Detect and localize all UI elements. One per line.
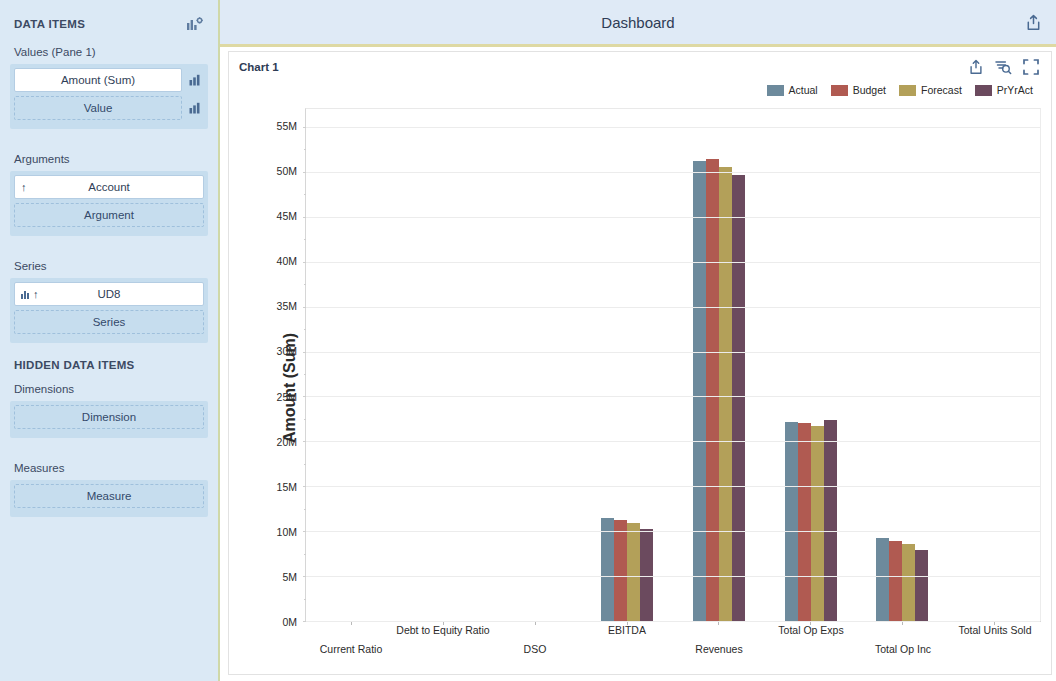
bar-pryract[interactable] — [824, 420, 837, 621]
sidebar-pill-row: ↑ Account — [14, 175, 204, 199]
export-icon[interactable] — [968, 59, 984, 75]
data-item-label: Measure — [87, 490, 132, 502]
sidebar-group-values: Amount (Sum) Value — [10, 64, 208, 129]
x-axis-labels: Current RatioDebt to Equity RatioDSOEBIT… — [305, 622, 1041, 666]
bar-actual[interactable] — [601, 518, 614, 621]
data-items-header: DATA ITEMS — [0, 0, 218, 42]
page-title: Dashboard — [220, 14, 1056, 31]
dashboard-pane: Dashboard Chart 1 — [220, 0, 1056, 681]
x-tick-label: Total Units Sold — [959, 624, 1032, 636]
sidebar-pill-row: Series — [14, 310, 204, 334]
sidebar-pill-row: Value — [14, 96, 204, 120]
sidebar-section-label-arguments: Arguments — [0, 149, 218, 171]
data-item-series-placeholder[interactable]: Series — [14, 310, 204, 334]
chart-card-actions — [968, 59, 1039, 75]
bars-layer — [306, 109, 1040, 621]
gridline — [306, 352, 1040, 353]
sidebar-group-series: ↑ UD8 Series — [10, 278, 208, 343]
y-tick-mark-minor — [304, 194, 306, 195]
legend-item[interactable]: PrYrAct — [975, 84, 1033, 96]
bar-actual[interactable] — [876, 538, 889, 621]
x-tick-label: Debt to Equity Ratio — [396, 624, 489, 636]
y-tick-mark-minor — [304, 329, 306, 330]
chart-title: Chart 1 — [239, 61, 279, 73]
y-tick-mark-minor — [304, 149, 306, 150]
legend-label: Budget — [853, 84, 886, 96]
gridline — [306, 217, 1040, 218]
dashboard-header: Dashboard — [220, 0, 1056, 47]
data-item-label: Dimension — [82, 411, 136, 423]
legend-item[interactable]: Budget — [831, 84, 886, 96]
data-item-label: UD8 — [97, 288, 120, 300]
bar-pryract[interactable] — [915, 550, 928, 621]
y-tick-label: 25M — [277, 391, 297, 403]
y-tick-mark — [303, 486, 306, 487]
y-tick-mark-minor — [304, 239, 306, 240]
bar-group — [581, 109, 673, 621]
y-tick-mark — [303, 262, 306, 263]
bar-budget[interactable] — [889, 541, 902, 621]
y-tick-label: 30M — [277, 345, 297, 357]
sidebar-section-label-measures: Measures — [0, 458, 218, 480]
bar-chart-icon[interactable] — [186, 99, 204, 117]
sidebar-group-dimensions: Dimension — [10, 401, 208, 438]
bar-budget[interactable] — [706, 159, 719, 621]
y-tick-mark-minor — [304, 509, 306, 510]
gridline — [306, 531, 1040, 532]
spacer — [0, 242, 218, 256]
y-tick-label: 5M — [282, 571, 297, 583]
bar-forecast[interactable] — [719, 167, 732, 622]
sidebar-section-label-series: Series — [0, 256, 218, 278]
bar-actual[interactable] — [785, 422, 798, 621]
chart-settings-icon[interactable] — [186, 16, 204, 32]
legend-item[interactable]: Forecast — [899, 84, 962, 96]
bar-group — [948, 109, 1040, 621]
bar-chart-icon[interactable] — [186, 71, 204, 89]
bar-forecast[interactable] — [811, 426, 824, 621]
data-item-value-placeholder[interactable]: Value — [14, 96, 182, 120]
y-tick-mark-minor — [304, 374, 306, 375]
data-item-account[interactable]: ↑ Account — [14, 175, 204, 199]
data-item-label: Amount (Sum) — [61, 74, 135, 86]
bar-forecast[interactable] — [902, 544, 915, 621]
legend-swatch — [831, 85, 848, 96]
data-item-measure-placeholder[interactable]: Measure — [14, 484, 204, 508]
y-tick-label: 20M — [277, 436, 297, 448]
legend-label: Forecast — [921, 84, 962, 96]
y-tick-mark-minor — [304, 284, 306, 285]
sort-asc-icon: ↑ — [21, 182, 27, 193]
gridline — [306, 441, 1040, 442]
x-tick-label: Total Op Inc — [875, 643, 931, 655]
filter-search-icon[interactable] — [995, 59, 1012, 75]
data-item-label: Argument — [84, 209, 134, 221]
y-tick-mark-minor — [304, 599, 306, 600]
data-item-ud8[interactable]: ↑ UD8 — [14, 282, 204, 306]
sidebar-group-arguments: ↑ Account Argument — [10, 171, 208, 236]
sidebar-pill-row: Dimension — [14, 405, 204, 429]
bar-forecast[interactable] — [627, 523, 640, 621]
legend-item[interactable]: Actual — [767, 84, 818, 96]
sidebar-section-label-values: Values (Pane 1) — [0, 42, 218, 64]
legend-label: Actual — [789, 84, 818, 96]
bar-actual[interactable] — [693, 161, 706, 621]
gridline — [306, 486, 1040, 487]
bar-budget[interactable] — [614, 520, 627, 622]
gridline — [306, 262, 1040, 263]
sidebar-pill-row: Argument — [14, 203, 204, 227]
data-item-amount-sum[interactable]: Amount (Sum) — [14, 68, 182, 92]
export-icon[interactable] — [1025, 14, 1042, 31]
spacer — [0, 135, 218, 149]
y-tick-mark — [303, 576, 306, 577]
bar-pryract[interactable] — [732, 175, 745, 621]
y-tick-mark — [303, 307, 306, 308]
hidden-data-items-title: HIDDEN DATA ITEMS — [0, 349, 218, 379]
y-tick-mark — [303, 396, 306, 397]
bar-budget[interactable] — [798, 423, 811, 621]
x-tick-label: EBITDA — [608, 624, 646, 636]
bar-group — [673, 109, 765, 621]
bar-group — [857, 109, 949, 621]
data-item-argument-placeholder[interactable]: Argument — [14, 203, 204, 227]
fullscreen-icon[interactable] — [1023, 59, 1039, 75]
legend-swatch — [767, 85, 784, 96]
data-item-dimension-placeholder[interactable]: Dimension — [14, 405, 204, 429]
